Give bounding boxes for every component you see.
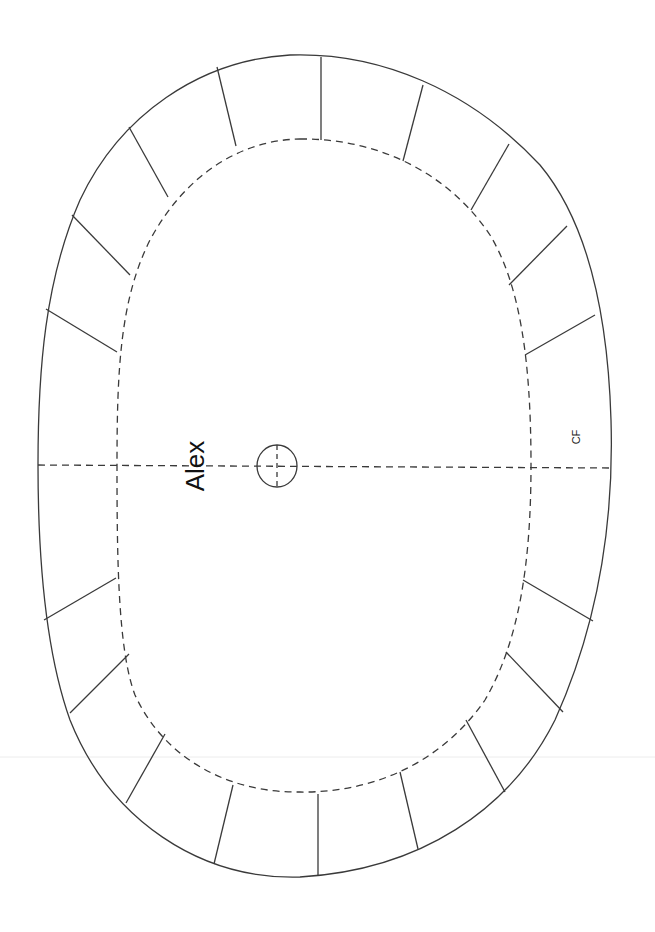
radial-segment-line: [126, 734, 165, 803]
radial-segment-line: [214, 785, 233, 864]
radial-segment-line: [70, 654, 129, 713]
radial-segment-line: [217, 67, 236, 146]
center-axis-line: [38, 465, 611, 468]
radial-segment-line: [466, 720, 505, 792]
center-front-label: CF: [570, 429, 582, 444]
pattern-name-label: Alex: [180, 441, 210, 492]
pattern-diagram: Alex CF: [0, 0, 655, 932]
radial-segment-line: [72, 215, 130, 275]
radial-segment-line: [400, 772, 418, 849]
radial-segment-line: [471, 144, 509, 210]
radial-segment-line: [509, 226, 567, 285]
radial-segment-line: [44, 578, 116, 620]
radial-segment-line: [525, 315, 595, 355]
radial-segment-line: [129, 127, 168, 197]
radial-segment-line: [46, 309, 117, 352]
radial-segment-line: [403, 85, 423, 161]
radial-segment-line: [506, 652, 563, 712]
radial-segment-line: [523, 580, 593, 621]
